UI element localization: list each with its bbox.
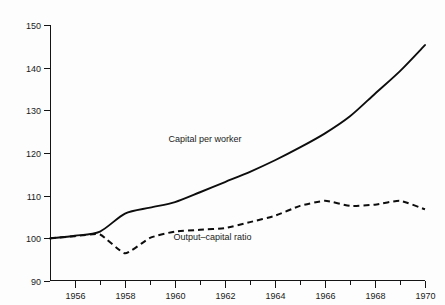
y-tick-label-100: 100 [26, 234, 41, 244]
x-tick-label-1956: 1956 [65, 291, 85, 301]
series-group [50, 45, 425, 253]
x-tick-label-1958: 1958 [115, 291, 135, 301]
x-tick-label-1960: 1960 [165, 291, 185, 301]
y-tick-label-150: 150 [26, 21, 41, 31]
chart-canvas: 90100110120130140150 1956195819601962196… [0, 0, 445, 305]
y-tick-label-120: 120 [26, 149, 41, 159]
x-tick-label-1962: 1962 [215, 291, 235, 301]
y-tick-label-group: 90100110120130140150 [26, 21, 41, 287]
y-tick-label-130: 130 [26, 106, 41, 116]
series-label-capital-per-worker: Capital per worker [168, 134, 241, 144]
y-tick-label-90: 90 [31, 277, 41, 287]
x-tick-label-1964: 1964 [265, 291, 285, 301]
y-tick-label-110: 110 [27, 192, 41, 202]
x-minor-tick-marks [101, 281, 401, 285]
x-tick-label-1968: 1968 [365, 291, 385, 301]
y-tick-label-140: 140 [26, 64, 41, 74]
y-axis: 90100110120130140150 [26, 21, 51, 287]
x-tick-label-1970: 1970 [415, 291, 435, 301]
x-tick-label-group: 19561958196019621964196619681970 [65, 291, 435, 301]
series-label-output-capital-ratio: Output–capital ratio [173, 232, 251, 242]
x-tick-label-1966: 1966 [315, 291, 335, 301]
y-tick-marks [44, 26, 50, 282]
x-axis: 19561958196019621964196619681970 [50, 281, 436, 302]
line-chart: 90100110120130140150 1956195819601962196… [0, 0, 445, 305]
